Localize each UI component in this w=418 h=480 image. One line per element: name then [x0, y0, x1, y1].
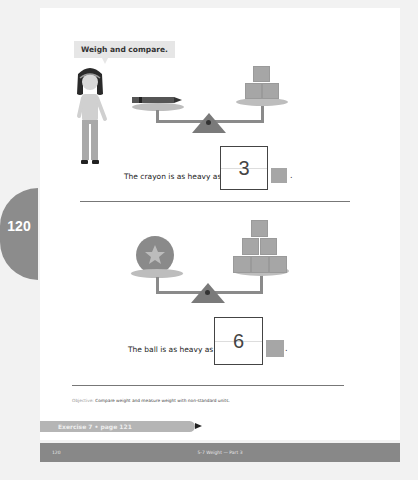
- objective: Objective: Compare weight and measure we…: [72, 398, 230, 403]
- exercise-link[interactable]: Exercise 7 • page 121: [40, 421, 195, 432]
- cube-icon: [262, 83, 279, 99]
- speech-bubble: Weigh and compare.: [74, 41, 175, 58]
- cube-icon: [253, 66, 270, 82]
- pivot-2: [205, 290, 210, 295]
- pivot-1: [206, 120, 211, 125]
- right-post-1: [261, 104, 264, 122]
- cube-icon: [266, 340, 284, 357]
- cube-icon: [233, 256, 251, 273]
- sentence-1: The crayon is as heavy as: [124, 172, 221, 181]
- divider: [72, 385, 344, 386]
- cube-icon: [271, 168, 287, 183]
- period-2: .: [285, 344, 288, 353]
- objective-text: Compare weight and measure weight with n…: [95, 398, 230, 403]
- page-number-tab-label: 120: [0, 218, 38, 234]
- cube-icon: [260, 238, 277, 255]
- answer-box-2[interactable]: 6: [214, 317, 263, 365]
- cube-icon: [251, 220, 268, 237]
- footer-bar: 120 5-7 Weight — Part 3: [40, 443, 400, 462]
- girl-illustration: [70, 64, 110, 170]
- cube-icon: [251, 256, 269, 273]
- page-number-tab: [0, 188, 38, 280]
- arrow-right-icon[interactable]: [195, 423, 202, 429]
- cube-icon: [245, 83, 262, 99]
- answer-box-1[interactable]: 3: [220, 146, 268, 190]
- right-plate-1: [236, 98, 288, 106]
- cube-icon: [269, 256, 287, 273]
- period-1: .: [290, 171, 293, 180]
- footer-title: 5-7 Weight — Part 3: [40, 443, 400, 462]
- divider: [80, 201, 350, 202]
- right-post-2: [260, 274, 263, 294]
- sentence-2: The ball is as heavy as: [128, 345, 213, 354]
- objective-label: Objective:: [72, 398, 94, 403]
- cube-icon: [242, 238, 259, 255]
